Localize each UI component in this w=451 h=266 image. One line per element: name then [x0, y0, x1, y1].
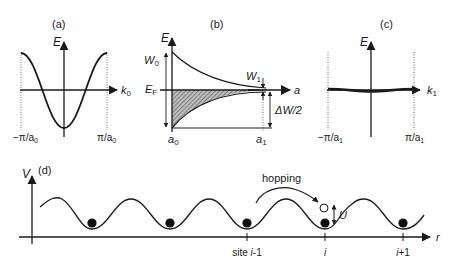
panel-a-label: (a) [52, 18, 65, 30]
panel-c: (c) E k1 −π/a1 π/a1 [318, 18, 438, 144]
site-label-i-minus-1: site i-1 [232, 247, 262, 258]
panel-b-y-label: E [161, 31, 170, 45]
panel-d-potential-curve [40, 198, 424, 229]
panel-d-v-label: V [22, 167, 31, 181]
panel-c-x-label: k1 [427, 84, 438, 98]
site-label-i: i [324, 247, 327, 258]
panel-c-left-tick: −π/a1 [318, 132, 343, 144]
u-label: U [339, 209, 347, 221]
diagram-canvas: (a) E k0 −π/a0 π/a0 (b) [0, 0, 451, 266]
panel-b-label: (b) [210, 18, 223, 30]
panel-d: (d) V r hopping U site i-1 i i+1 [19, 164, 441, 258]
panel-b: (b) E a W0 EF W1 ΔW/2 a0 a1 [144, 18, 302, 147]
hopping-arrow [256, 188, 318, 203]
electron-dot [320, 218, 329, 227]
panel-c-y-label: E [360, 35, 369, 49]
panel-a-right-tick: π/a0 [97, 132, 116, 144]
panel-c-right-tick: π/a1 [405, 132, 424, 144]
panel-b-filled-states [172, 90, 266, 128]
panel-b-delta-w-label: ΔW/2 [274, 104, 302, 116]
hopped-electron-circle [320, 204, 328, 212]
panel-b-w0-label: W0 [144, 54, 159, 68]
panel-a-x-label: k0 [121, 84, 132, 98]
panel-b-fermi-label: EF [145, 83, 157, 97]
panel-a-y-label: E [53, 35, 62, 49]
electron-dot [398, 218, 407, 227]
panel-c-label: (c) [380, 18, 393, 30]
panel-b-a0-tick: a0 [168, 133, 179, 147]
panel-a-left-tick: −π/a0 [13, 132, 38, 144]
panel-b-a1-tick: a1 [256, 133, 267, 147]
hopping-label: hopping [262, 172, 301, 184]
electron-dot [242, 218, 251, 227]
panel-b-x-label: a [294, 84, 300, 96]
electron-dot [87, 218, 96, 227]
panel-d-r-label: r [436, 231, 441, 243]
panel-b-w1-label: W1 [246, 70, 261, 84]
panel-d-label: (d) [38, 164, 51, 176]
panel-a: (a) E k0 −π/a0 π/a0 [13, 18, 132, 144]
site-label-i-plus-1: i+1 [396, 247, 410, 258]
electron-dot [165, 218, 174, 227]
